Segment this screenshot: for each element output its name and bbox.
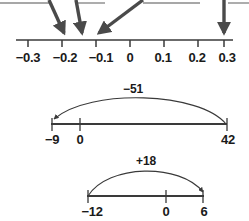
plus-18-arc (88, 171, 203, 196)
tick-label-0-3: 0.3 (218, 50, 235, 65)
panel-decimal-number-line (0, 0, 249, 47)
math-number-line-figure: −0.3 −0.2 −0.1 0 0.1 0.2 0.3 −51 −9 0 42… (0, 0, 249, 221)
tick-label-6: 6 (201, 204, 208, 219)
plus-18-axis (87, 190, 204, 203)
decimal-arrow-group (49, 0, 224, 33)
tick-label-neg-0-3: −0.3 (16, 50, 40, 65)
tick-label-neg-9: −9 (45, 132, 59, 147)
tick-label-0: 0 (127, 50, 134, 65)
panel-minus-51 (51, 98, 227, 131)
tick-label-neg-12: −12 (81, 204, 102, 219)
arrow-to-neg-0-2 (49, 0, 64, 33)
tick-label-neg-0-1: −0.1 (89, 50, 113, 65)
tick-label-0-2: 0.2 (188, 50, 205, 65)
arrow-to-neg-0-15 (76, 0, 82, 33)
decimal-axis (16, 40, 233, 47)
tick-label-zero-line3: 0 (163, 204, 170, 219)
arc-label-minus-51: −51 (123, 82, 143, 96)
minus-51-axis (51, 118, 227, 131)
tick-label-zero-line2: 0 (77, 132, 84, 147)
figure-vector-layer (0, 0, 249, 221)
tick-label-0-1: 0.1 (154, 50, 171, 65)
arc-label-plus-18: +18 (136, 154, 156, 168)
tick-label-neg-0-2: −0.2 (53, 50, 77, 65)
arrow-to-neg-0-1 (99, 0, 143, 33)
tick-label-42: 42 (221, 132, 235, 147)
panel-plus-18 (87, 171, 204, 203)
